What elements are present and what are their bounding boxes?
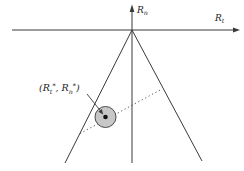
vertical-axis-label: Rn [136,5,148,16]
point-label-mid: , R [56,82,69,93]
point-label: (Rt*, Rn*) [39,82,80,95]
point-label-open: (R [39,82,50,93]
dotted-chord-line [80,89,162,134]
point-label-close: ) [75,82,80,93]
vertical-axis-label-sub: n [144,9,148,16]
horizontal-axis-label-sub: t [222,17,225,24]
right-arrowhead-icon [233,28,240,33]
point-label-sub-t: t [50,88,53,95]
cone-left-edge [65,30,132,163]
cone-right-edge [132,30,202,161]
horizontal-axis-label: Rt [214,13,225,24]
friction-cone-diagram: Rn Rt (Rt*, Rn*) [0,0,244,171]
point-label-sub-n: n [69,88,73,95]
diagram-canvas: Rn Rt (Rt*, Rn*) [0,0,244,171]
up-arrowhead-icon [130,5,135,13]
contact-point-dot [103,115,108,120]
